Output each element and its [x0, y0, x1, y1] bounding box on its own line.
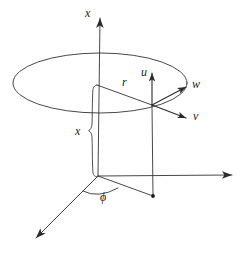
diagram-canvas [0, 0, 246, 255]
radius-label: r [122, 76, 127, 88]
x-axis-label: x [85, 7, 90, 19]
left-axis-line [36, 176, 98, 238]
w-vector [152, 87, 186, 105]
height-label: x [75, 125, 80, 137]
v-vector [152, 105, 186, 118]
vertical-dropline [152, 105, 153, 196]
x-axis-line [98, 18, 100, 176]
top-circle [13, 53, 187, 113]
v-vector-label: v [193, 110, 198, 122]
right-axis-line [98, 175, 232, 176]
height-brace [89, 85, 97, 177]
projected-point-dot [151, 194, 155, 198]
w-vector-label: w [192, 78, 200, 90]
u-vector-label: u [141, 66, 147, 78]
phi-angle-label: ϕ [100, 191, 106, 203]
cylindrical-coordinate-diagram: x r u w v x ϕ [0, 0, 246, 255]
